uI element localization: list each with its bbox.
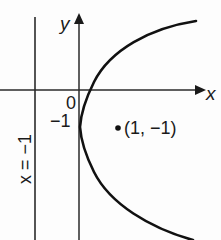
origin-label: 0 bbox=[66, 94, 76, 112]
focus-label: (1, −1) bbox=[124, 119, 177, 137]
focus-point bbox=[115, 125, 121, 131]
y-axis-arrow-icon bbox=[74, 13, 84, 24]
y-axis-label: y bbox=[60, 14, 70, 33]
x-axis-label: x bbox=[206, 84, 216, 103]
x-axis-arrow-icon bbox=[195, 85, 206, 95]
directrix-label: x = −1 bbox=[16, 134, 34, 184]
y-tick-minus-one: −1 bbox=[50, 112, 71, 130]
parabola-diagram: y x 0 −1 (1, −1) x = −1 bbox=[0, 0, 221, 240]
diagram-graphics bbox=[0, 0, 221, 240]
